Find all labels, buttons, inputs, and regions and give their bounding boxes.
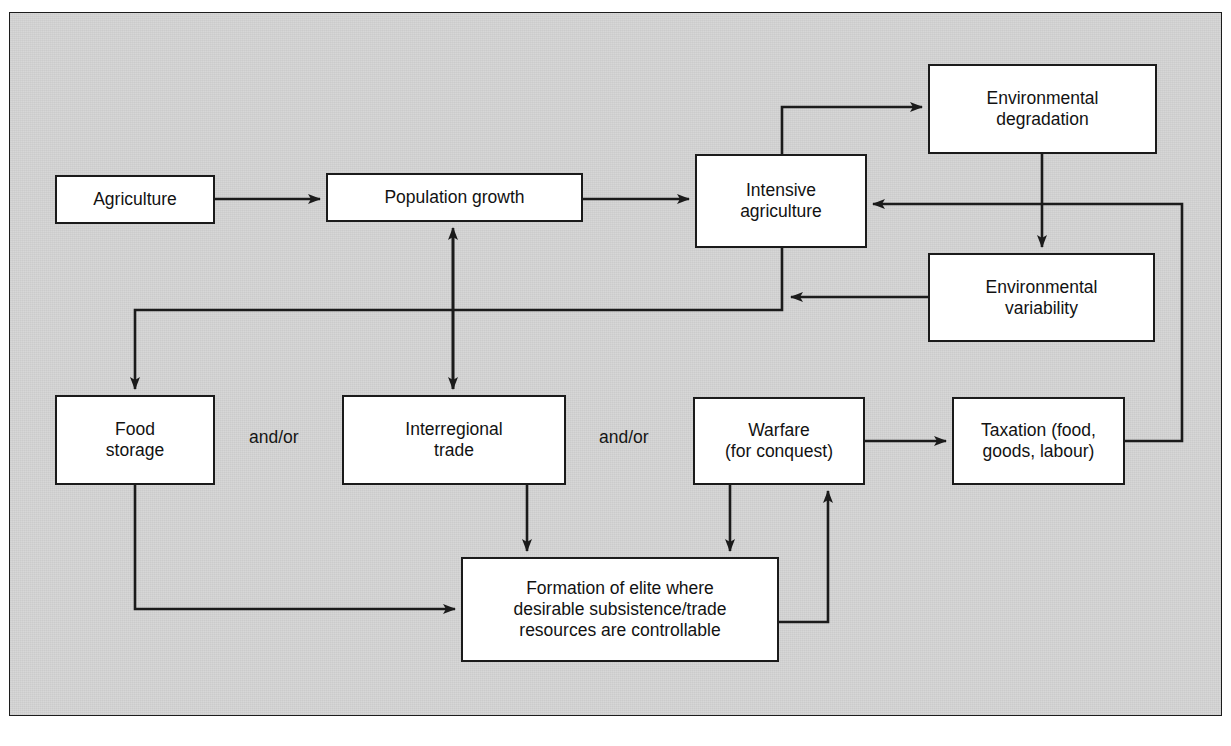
- node-environmental-degradation[interactable]: Environmental degradation: [928, 64, 1157, 154]
- node-taxation-label: Taxation (food, goods, labour): [975, 420, 1102, 462]
- node-environmental-variability[interactable]: Environmental variability: [928, 253, 1155, 342]
- edge-foodstorage-to-elite: [135, 485, 455, 609]
- diagram-canvas: Agriculture Population growth Intensive …: [0, 0, 1231, 746]
- node-agriculture-label: Agriculture: [87, 189, 183, 210]
- edge-elite-to-warfare: [779, 491, 828, 622]
- node-food-storage[interactable]: Food storage: [55, 395, 215, 485]
- node-warfare-label: Warfare (for conquest): [719, 420, 839, 462]
- node-interregional-trade-label: Interregional trade: [399, 419, 508, 461]
- node-environmental-degradation-label: Environmental degradation: [981, 88, 1105, 130]
- node-intensive-agriculture-label: Intensive agriculture: [734, 180, 828, 222]
- node-formation-of-elite[interactable]: Formation of elite where desirable subsi…: [461, 557, 779, 662]
- node-population-growth-label: Population growth: [378, 187, 530, 208]
- node-formation-of-elite-label: Formation of elite where desirable subsi…: [507, 578, 732, 641]
- node-population-growth[interactable]: Population growth: [326, 173, 583, 222]
- node-intensive-agriculture[interactable]: Intensive agriculture: [695, 154, 867, 248]
- node-interregional-trade[interactable]: Interregional trade: [342, 395, 566, 485]
- edge-intensive-to-foodstorage: [135, 248, 782, 389]
- node-agriculture[interactable]: Agriculture: [55, 175, 215, 224]
- node-environmental-variability-label: Environmental variability: [980, 277, 1104, 319]
- connector-label-andor-2: and/or: [599, 427, 649, 448]
- node-warfare[interactable]: Warfare (for conquest): [693, 397, 865, 485]
- edge-intensive-to-degradation: [782, 107, 922, 154]
- node-taxation[interactable]: Taxation (food, goods, labour): [952, 397, 1125, 485]
- node-food-storage-label: Food storage: [100, 419, 170, 461]
- connector-label-andor-1: and/or: [249, 427, 299, 448]
